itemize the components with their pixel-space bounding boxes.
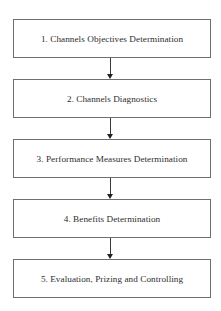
arrow-line-3-4 bbox=[110, 178, 111, 195]
step-box-3: 3. Performance Measures Determination bbox=[13, 139, 211, 178]
arrow-line-2-3 bbox=[110, 118, 111, 135]
step-box-2: 2. Channels Diagnostics bbox=[13, 79, 211, 118]
arrow-line-4-5 bbox=[110, 238, 111, 255]
arrow-line-1-2 bbox=[110, 58, 111, 75]
step-box-4: 4. Benefits Determination bbox=[13, 199, 211, 238]
step-label-2: 2. Channels Diagnostics bbox=[67, 94, 157, 104]
step-label-4: 4. Benefits Determination bbox=[64, 214, 160, 224]
step-label-3: 3. Performance Measures Determination bbox=[37, 154, 188, 164]
step-label-5: 5. Evaluation, Prizing and Controlling bbox=[41, 274, 183, 284]
step-box-1: 1. Channels Objectives Determination bbox=[13, 19, 211, 58]
step-label-1: 1. Channels Objectives Determination bbox=[41, 34, 183, 44]
step-box-5: 5. Evaluation, Prizing and Controlling bbox=[13, 259, 211, 298]
